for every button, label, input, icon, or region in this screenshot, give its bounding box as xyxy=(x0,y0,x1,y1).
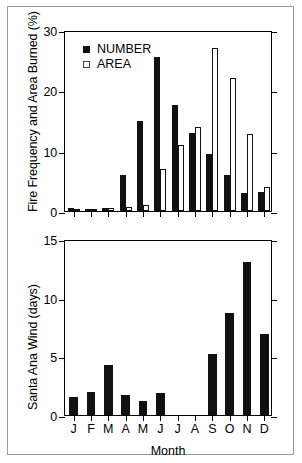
top-panel-plot-area: NUMBER AREA 0102030 xyxy=(64,31,272,212)
bar-number-M xyxy=(137,121,143,212)
y-tick-right-30 xyxy=(271,32,277,33)
y-tick-5 xyxy=(59,358,65,359)
x-axis-label-1: F xyxy=(87,423,95,436)
x-tick-D xyxy=(264,211,265,217)
top-panel-y-axis-title: Fire Frequency and Area Burned (%) xyxy=(26,11,40,212)
y-tick-15 xyxy=(59,241,65,242)
x-tick-J xyxy=(178,211,179,217)
y-tick-0 xyxy=(59,213,65,214)
figure-container: Fire Frequency and Area Burned (%) NUMBE… xyxy=(0,0,302,463)
x-axis-label-6: J xyxy=(175,423,181,436)
x-tick-O xyxy=(230,415,231,421)
panel-fire-frequency: Fire Frequency and Area Burned (%) NUMBE… xyxy=(0,0,302,222)
bar-santa-ana-wind-N xyxy=(243,262,252,415)
bottom-panel-y-axis-title: Santa Ana Wind (days) xyxy=(26,284,40,410)
x-tick-A xyxy=(195,211,196,217)
bar-area-N xyxy=(247,134,253,211)
y-tick-10 xyxy=(59,300,65,301)
panel-santa-ana-wind: Santa Ana Wind (days) 051015JFMAMJJASOND… xyxy=(0,222,302,463)
bar-number-A xyxy=(120,175,126,211)
y-tick-right-5 xyxy=(271,358,277,359)
x-tick-J xyxy=(74,415,75,421)
bar-area-J xyxy=(160,169,166,211)
x-axis-label-8: S xyxy=(208,423,216,436)
x-tick-A xyxy=(195,415,196,421)
bar-area-O xyxy=(230,78,236,211)
x-tick-N xyxy=(247,211,248,217)
bottom-panel-plot-area: 051015JFMAMJJASOND xyxy=(64,240,272,416)
y-tick-label-20: 20 xyxy=(43,86,57,99)
x-tick-F xyxy=(91,211,92,217)
x-axis-label-4: M xyxy=(138,423,148,436)
bottom-panel-bars xyxy=(65,241,271,415)
y-tick-label-30: 30 xyxy=(43,26,57,39)
x-tick-J xyxy=(160,211,161,217)
y-tick-label-10: 10 xyxy=(43,293,57,306)
bar-santa-ana-wind-A xyxy=(121,395,130,415)
x-tick-M xyxy=(143,211,144,217)
x-tick-D xyxy=(264,415,265,421)
y-tick-label-15: 15 xyxy=(43,235,57,248)
y-tick-label-0: 0 xyxy=(50,411,57,424)
bar-area-D xyxy=(264,187,270,211)
x-tick-F xyxy=(91,415,92,421)
y-tick-label-5: 5 xyxy=(50,352,57,365)
x-tick-N xyxy=(247,415,248,421)
x-tick-O xyxy=(230,211,231,217)
x-axis-label-2: M xyxy=(103,423,113,436)
bar-santa-ana-wind-J xyxy=(69,397,78,415)
bar-santa-ana-wind-J xyxy=(156,393,165,415)
y-tick-label-0: 0 xyxy=(50,207,57,220)
bottom-panel-x-axis-title: Month xyxy=(151,444,186,458)
x-axis-label-7: A xyxy=(191,423,199,436)
bar-area-A xyxy=(195,127,201,211)
x-tick-J xyxy=(178,415,179,421)
x-tick-M xyxy=(143,415,144,421)
y-tick-right-10 xyxy=(271,300,277,301)
x-axis-label-9: O xyxy=(225,423,235,436)
y-tick-right-0 xyxy=(271,213,277,214)
y-tick-30 xyxy=(59,32,65,33)
x-tick-S xyxy=(212,415,213,421)
x-tick-J xyxy=(160,415,161,421)
x-tick-M xyxy=(108,415,109,421)
y-tick-right-10 xyxy=(271,153,277,154)
x-axis-label-5: J xyxy=(157,423,163,436)
bar-area-S xyxy=(212,48,218,211)
y-tick-right-15 xyxy=(271,241,277,242)
x-tick-S xyxy=(212,211,213,217)
y-tick-right-0 xyxy=(271,417,277,418)
y-tick-right-20 xyxy=(271,92,277,93)
bar-santa-ana-wind-M xyxy=(139,401,148,415)
x-tick-J xyxy=(74,211,75,217)
y-tick-label-10: 10 xyxy=(43,146,57,159)
bar-santa-ana-wind-D xyxy=(260,334,269,415)
x-tick-A xyxy=(126,211,127,217)
x-axis-label-0: J xyxy=(71,423,77,436)
bar-santa-ana-wind-M xyxy=(104,365,113,415)
bar-santa-ana-wind-F xyxy=(87,392,96,415)
bar-santa-ana-wind-O xyxy=(225,313,234,415)
x-tick-A xyxy=(126,415,127,421)
y-tick-20 xyxy=(59,92,65,93)
x-tick-M xyxy=(108,211,109,217)
bar-area-J xyxy=(178,145,184,211)
y-tick-10 xyxy=(59,153,65,154)
x-axis-label-10: N xyxy=(242,423,251,436)
bar-santa-ana-wind-S xyxy=(208,354,217,415)
x-axis-label-3: A xyxy=(121,423,129,436)
top-panel-bars xyxy=(65,32,271,211)
x-axis-label-11: D xyxy=(260,423,269,436)
y-tick-0 xyxy=(59,417,65,418)
